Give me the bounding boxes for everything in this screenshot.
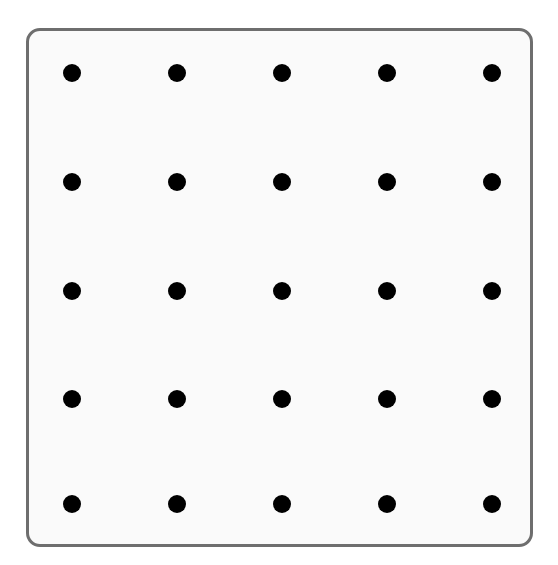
rounded-rectangle-panel	[26, 28, 533, 547]
grid-dot-r4c4	[378, 390, 396, 408]
grid-dot-r5c4	[378, 495, 396, 513]
grid-dot-r1c1	[63, 64, 81, 82]
grid-dot-r2c1	[63, 173, 81, 191]
grid-dot-r5c3	[273, 495, 291, 513]
grid-dot-r3c4	[378, 282, 396, 300]
grid-dot-r3c5	[483, 282, 501, 300]
grid-dot-r3c2	[168, 282, 186, 300]
grid-dot-r4c3	[273, 390, 291, 408]
figure-canvas	[0, 0, 558, 565]
grid-dot-r1c4	[378, 64, 396, 82]
grid-dot-r2c2	[168, 173, 186, 191]
grid-dot-r5c5	[483, 495, 501, 513]
grid-dot-r1c2	[168, 64, 186, 82]
grid-dot-r5c2	[168, 495, 186, 513]
grid-dot-r4c2	[168, 390, 186, 408]
grid-dot-r3c1	[63, 282, 81, 300]
grid-dot-r4c5	[483, 390, 501, 408]
grid-dot-r1c5	[483, 64, 501, 82]
grid-dot-r4c1	[63, 390, 81, 408]
dot-grid	[29, 31, 530, 544]
grid-dot-r3c3	[273, 282, 291, 300]
grid-dot-r5c1	[63, 495, 81, 513]
grid-dot-r1c3	[273, 64, 291, 82]
grid-dot-r2c4	[378, 173, 396, 191]
grid-dot-r2c5	[483, 173, 501, 191]
grid-dot-r2c3	[273, 173, 291, 191]
